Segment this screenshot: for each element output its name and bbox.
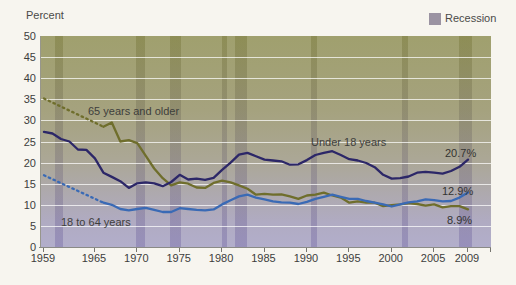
x-tick xyxy=(306,248,307,252)
x-tick-label: 2009 xyxy=(445,252,489,264)
series-line-under-18-years xyxy=(44,132,468,188)
x-tick xyxy=(490,248,491,252)
series-label-under-18: Under 18 years xyxy=(311,136,386,148)
x-tick xyxy=(391,248,392,252)
x-tick xyxy=(264,248,265,252)
y-tick-label: 15 xyxy=(2,178,36,190)
x-tick-label: 1990 xyxy=(284,252,328,264)
x-tick-label: 2000 xyxy=(369,252,413,264)
x-tick-label: 1970 xyxy=(114,252,158,264)
end-value-18-to-64: 12.9% xyxy=(442,185,473,197)
y-tick-label: 25 xyxy=(2,136,36,148)
y-tick-label: 10 xyxy=(2,199,36,211)
y-tick-label: 5 xyxy=(2,220,36,232)
poverty-rate-chart: Percent Recession 05101520253035404550 1… xyxy=(0,0,516,285)
x-tick-label: 1980 xyxy=(199,252,243,264)
x-tick xyxy=(348,248,349,252)
y-tick-label: 30 xyxy=(2,114,36,126)
end-value-under-18: 20.7% xyxy=(445,147,476,159)
x-tick-label: 1995 xyxy=(326,252,370,264)
x-tick xyxy=(43,248,44,252)
x-tick xyxy=(94,248,95,252)
y-tick-label: 40 xyxy=(2,72,36,84)
x-axis-line xyxy=(39,247,491,248)
x-tick xyxy=(467,248,468,252)
y-axis-unit-label: Percent xyxy=(26,9,64,21)
x-tick-label: 1975 xyxy=(157,252,201,264)
y-tick-label: 35 xyxy=(2,93,36,105)
x-tick-label: 1965 xyxy=(72,252,116,264)
series-label-65-and-older: 65 years and older xyxy=(88,105,179,117)
x-tick-label: 1959 xyxy=(21,252,65,264)
y-tick-label: 45 xyxy=(2,51,36,63)
x-tick xyxy=(433,248,434,252)
x-tick-label: 1985 xyxy=(242,252,286,264)
series-label-18-to-64: 18 to 64 years xyxy=(61,216,131,228)
x-tick xyxy=(136,248,137,252)
end-value-65-and-older: 8.9% xyxy=(447,214,472,226)
y-tick-label: 20 xyxy=(2,157,36,169)
x-tick xyxy=(221,248,222,252)
series-line-65-years-and-older xyxy=(103,123,468,210)
recession-legend-label: Recession xyxy=(445,12,496,24)
x-tick xyxy=(179,248,180,252)
recession-swatch-icon xyxy=(429,13,441,25)
y-tick-label: 50 xyxy=(2,30,36,42)
series-line-dashed-18-to-64-years xyxy=(44,175,103,202)
